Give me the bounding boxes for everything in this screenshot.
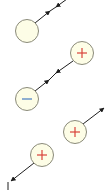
edge-n4-out (83, 108, 104, 124)
node-negative[interactable] (16, 88, 39, 111)
edge-n5-out (11, 163, 34, 181)
edge-n1-top (35, 0, 67, 23)
charge-diagram (0, 0, 109, 190)
node-positive-3[interactable] (31, 144, 54, 167)
node-positive-1[interactable] (71, 42, 94, 65)
node-positive-2[interactable] (64, 121, 87, 144)
edge-n2-n3 (35, 61, 73, 91)
node-neutral[interactable] (16, 20, 39, 43)
